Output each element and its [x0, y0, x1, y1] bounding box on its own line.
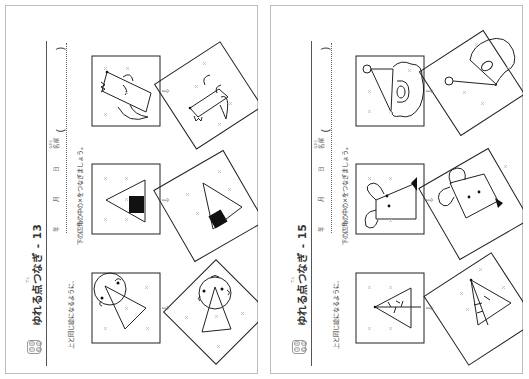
arrow-icon: ⇨: [426, 86, 434, 96]
dot-grid-box-2: [419, 148, 523, 259]
reference-box-1: [356, 56, 424, 126]
arrow-icon: ⇨: [162, 195, 170, 205]
arrow-icon: ⇨: [162, 86, 170, 96]
arrow-icon: ⇨: [162, 303, 170, 313]
worksheet-page-13: ち え ね ん ゆれる点つなぎ - 13 てん 年 月 日 名前 なまえ ( )…: [5, 5, 258, 374]
arrow-icon: ⇨: [426, 303, 434, 313]
puzzle-drawings: [5, 5, 258, 374]
dot-grid-box-1: [155, 42, 258, 149]
puzzle-drawings: [270, 5, 523, 374]
reference-box-2: [356, 164, 424, 234]
dot-grid-box-3: [424, 253, 523, 365]
black-square: [129, 196, 144, 213]
dot-grid-box-2: [154, 150, 258, 261]
arrow-icon: ⇨: [426, 195, 434, 205]
reference-box-3: [356, 273, 424, 343]
worksheet-page-15: ち え ね ん ゆれる点つなぎ - 15 てん 年 月 日 名前 なまえ ( )…: [270, 5, 523, 374]
